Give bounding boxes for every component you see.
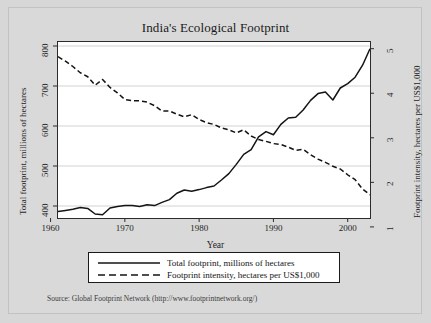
x-tick-label: 2000 [328,223,368,233]
source-note: Source: Global Footprint Network (http:/… [47,294,257,303]
y-axis-label-left: Total footprint, millions of hectares [18,87,28,215]
legend-key-solid-line [98,258,160,268]
y-axis-label-right: Footprint intensity, hectares per US$1,0… [412,66,422,218]
y-tick-label-right: 5 [385,48,395,53]
chart-legend: Total footprint, millions of hectares Fo… [88,252,340,283]
y-tick-label-right: 2 [385,182,395,187]
y-tick-label-right: 4 [385,93,395,98]
chart-figure: India's Ecological Footprint Total footp… [0,0,431,323]
x-axis-label: Year [0,240,431,250]
y-tick-label-right: 1 [385,226,395,231]
y-tick-label-left: 600 [40,124,50,138]
x-tick-label: 1980 [179,223,219,233]
y-tick-label-left: 400 [40,204,50,218]
y-tick-label-left: 700 [40,84,50,98]
x-tick-label: 1990 [253,223,293,233]
legend-label-footprint-intensity: Footprint intensity, hectares per US$1,0… [167,270,319,280]
y-tick-label-right: 3 [385,137,395,142]
x-tick-label: 1960 [31,223,71,233]
y-tick-label-left: 800 [40,44,50,58]
legend-key-dashed-line [98,270,160,280]
y-tick-label-left: 500 [40,164,50,178]
legend-label-total-footprint: Total footprint, millions of hectares [167,258,295,268]
x-tick-label: 1970 [105,223,145,233]
legend-item-footprint-intensity: Footprint intensity, hectares per US$1,0… [89,268,339,282]
